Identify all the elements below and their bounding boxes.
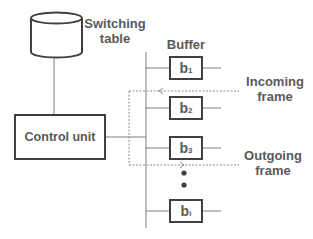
buffer-b1-sub: 1 [188, 66, 192, 75]
switching-table-label-line2: table [80, 31, 150, 46]
outgoing-frame-line1: Outgoing [236, 148, 310, 163]
database-icon [31, 13, 82, 58]
buffer-b1: b1 [169, 56, 203, 80]
outgoing-frame-label: Outgoing frame [236, 148, 310, 178]
buffer-b3: b3 [169, 136, 203, 160]
buffer-bi-label: b [181, 203, 190, 219]
buffer-b1-label: b [179, 60, 188, 76]
buffer-b2-label: b [179, 100, 188, 116]
incoming-frame-label: Incoming frame [240, 74, 310, 104]
incoming-frame-line2: frame [240, 89, 310, 104]
buffer-bi-sub: i [189, 209, 191, 218]
buffer-b3-label: b [179, 140, 188, 156]
ellipsis-dot-icon [181, 182, 186, 187]
control-unit-label: Control unit [25, 130, 96, 144]
buffer-b2-sub: 2 [188, 106, 192, 115]
incoming-frame-line1: Incoming [240, 74, 310, 89]
ellipsis-dot-icon [181, 170, 186, 175]
buffer-bi: bi [169, 199, 203, 223]
buffer-b3-sub: 3 [188, 146, 192, 155]
switching-table-label-line1: Switching [80, 16, 150, 31]
switching-table-label: Switching table [80, 16, 150, 46]
outgoing-frame-line2: frame [236, 163, 310, 178]
control-unit-box: Control unit [14, 114, 106, 160]
buffer-header: Buffer [163, 37, 209, 52]
buffer-b2: b2 [169, 96, 203, 120]
